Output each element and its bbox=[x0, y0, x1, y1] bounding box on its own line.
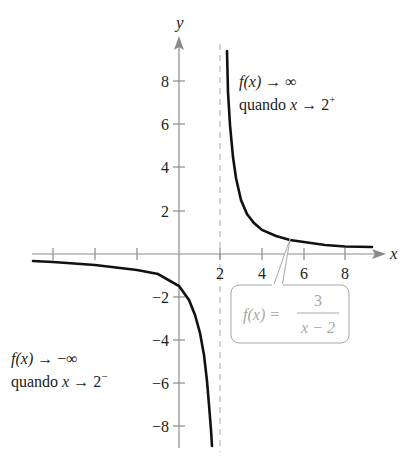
svg-text:−2: −2 bbox=[152, 289, 169, 306]
svg-text:f(x) → −∞: f(x) → −∞ bbox=[11, 350, 78, 368]
svg-text:8: 8 bbox=[341, 265, 349, 282]
svg-text:2: 2 bbox=[161, 203, 169, 220]
svg-text:x − 2: x − 2 bbox=[300, 319, 335, 336]
svg-text:6: 6 bbox=[300, 265, 308, 282]
svg-text:3: 3 bbox=[314, 292, 322, 309]
lower-limit-annotation: f(x) → −∞ quando x → 2− bbox=[11, 350, 107, 391]
svg-text:2: 2 bbox=[216, 265, 224, 282]
svg-text:−4: −4 bbox=[152, 332, 169, 349]
svg-text:f(x) → ∞: f(x) → ∞ bbox=[239, 73, 297, 91]
svg-text:4: 4 bbox=[258, 265, 266, 282]
svg-text:4: 4 bbox=[161, 159, 169, 176]
svg-text:quando x → 2−: quando x → 2− bbox=[11, 370, 107, 391]
svg-text:−6: −6 bbox=[152, 375, 169, 392]
svg-text:f(x) =: f(x) = bbox=[243, 306, 280, 324]
y-axis-label: y bbox=[174, 13, 184, 32]
svg-text:6: 6 bbox=[161, 116, 169, 133]
x-axis-label: x bbox=[389, 244, 398, 263]
svg-text:quando x → 2+: quando x → 2+ bbox=[239, 93, 335, 114]
rational-function-graph: y x 8 6 4 2 −2 −4 −6 −8 2 4 6 8 f(x) → ∞… bbox=[0, 0, 418, 463]
upper-limit-annotation: f(x) → ∞ quando x → 2+ bbox=[239, 73, 335, 114]
svg-text:−8: −8 bbox=[152, 418, 169, 435]
callout-pointer bbox=[273, 239, 290, 287]
svg-text:8: 8 bbox=[161, 73, 169, 90]
